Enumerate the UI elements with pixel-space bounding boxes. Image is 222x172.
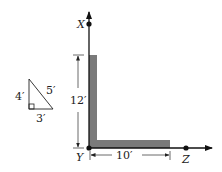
label-z: Z: [181, 153, 190, 166]
label-y: Y: [76, 151, 85, 164]
label-x: X: [76, 18, 86, 31]
vertical-leg: [89, 55, 97, 148]
slope-triangle: 4′ 5′ 3′: [15, 79, 56, 125]
dimension-vertical: 12′: [70, 55, 87, 148]
triangle-side-5: 5′: [46, 84, 56, 97]
dimension-horizontal-label: 10′: [116, 149, 133, 162]
point-z: [183, 145, 188, 150]
l-member: [89, 55, 170, 148]
l-shaped-member-diagram: X Y Z 12′ 10′ 4′ 5′ 3′: [0, 0, 222, 172]
triangle-side-3: 3′: [36, 112, 46, 125]
dimension-horizontal: 10′: [90, 149, 170, 162]
dimension-vertical-label: 12′: [70, 94, 87, 107]
point-y: [86, 145, 91, 150]
triangle-side-4: 4′: [15, 90, 25, 103]
point-x: [86, 21, 91, 26]
horizontal-leg: [89, 140, 170, 148]
